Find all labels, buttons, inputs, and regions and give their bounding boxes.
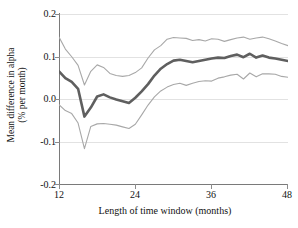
y-axis-title-line2: (% per month) bbox=[17, 47, 28, 142]
y-tick-label: -0.1 bbox=[32, 137, 56, 147]
x-axis-tick-labels: 12 24 36 48 bbox=[59, 189, 288, 203]
y-tick-label: 0.0 bbox=[32, 94, 56, 104]
y-axis-title: Mean difference in alpha (% per month) bbox=[0, 0, 34, 190]
series-lines bbox=[59, 14, 288, 185]
chart-figure: Mean difference in alpha (% per month) 0… bbox=[0, 0, 298, 228]
x-tick-label: 12 bbox=[45, 189, 73, 201]
x-tick-label: 24 bbox=[121, 189, 149, 201]
line-lower-bound bbox=[59, 73, 288, 149]
line-mean bbox=[59, 54, 288, 117]
x-axis-title: Length of time window (months) bbox=[40, 205, 290, 217]
plot-area bbox=[59, 14, 288, 185]
y-axis-title-line1: Mean difference in alpha bbox=[6, 47, 17, 142]
y-tick-label: 0.2 bbox=[32, 9, 56, 19]
x-tick-label: 36 bbox=[197, 189, 225, 201]
x-tick-label: 48 bbox=[273, 189, 298, 201]
y-tick-label: 0.1 bbox=[32, 52, 56, 62]
